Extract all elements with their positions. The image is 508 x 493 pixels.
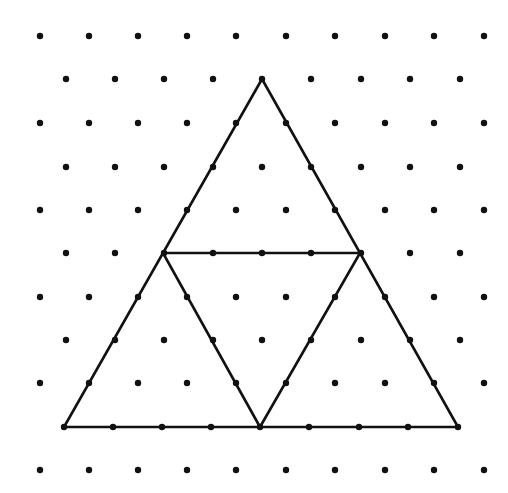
grid-dot — [407, 164, 413, 170]
grid-dot — [86, 33, 92, 39]
grid-dot — [37, 294, 43, 300]
grid-dot — [407, 250, 413, 256]
grid-dot — [233, 467, 239, 473]
grid-dot — [161, 76, 167, 82]
grid-dot — [37, 207, 43, 213]
grid-dot — [161, 337, 167, 343]
grid-dot — [135, 380, 141, 386]
grid-dot — [382, 380, 388, 386]
grid-dot — [481, 294, 487, 300]
grid-dot — [481, 33, 487, 39]
grid-dot — [135, 120, 141, 126]
grid-dot — [233, 294, 239, 300]
grid-dot — [431, 33, 437, 39]
grid-dot — [86, 294, 92, 300]
grid-dot — [63, 337, 69, 343]
grid-dot — [283, 33, 289, 39]
grid-dot — [431, 120, 437, 126]
grid-dot — [332, 33, 338, 39]
grid-dot — [63, 250, 69, 256]
grid-dot — [86, 467, 92, 473]
grid-dot — [184, 120, 190, 126]
grid-dot — [184, 33, 190, 39]
grid-dot — [135, 467, 141, 473]
grid-dot — [431, 207, 437, 213]
grid-dot — [457, 76, 463, 82]
grid-dot — [184, 467, 190, 473]
grid-dot — [210, 76, 216, 82]
grid-dot — [358, 164, 364, 170]
grid-dot — [112, 250, 118, 256]
grid-dot — [37, 33, 43, 39]
grid-dot — [233, 207, 239, 213]
grid-dot — [457, 250, 463, 256]
grid-dot — [259, 164, 265, 170]
grid-dot — [457, 164, 463, 170]
grid-dot — [382, 120, 388, 126]
grid-dot — [86, 120, 92, 126]
grid-dot — [308, 76, 314, 82]
grid-dot — [112, 76, 118, 82]
grid-dot — [63, 164, 69, 170]
grid-dot — [86, 207, 92, 213]
grid-dot — [481, 467, 487, 473]
grid-dot — [481, 120, 487, 126]
grid-dot — [233, 33, 239, 39]
grid-dot — [184, 380, 190, 386]
grid-dot — [358, 337, 364, 343]
background — [0, 0, 508, 493]
grid-dot — [481, 380, 487, 386]
grid-dot — [431, 467, 437, 473]
grid-dot — [457, 337, 463, 343]
grid-dot — [283, 294, 289, 300]
grid-dot — [37, 380, 43, 386]
grid-dot — [135, 207, 141, 213]
grid-dot — [358, 76, 364, 82]
grid-dot — [63, 76, 69, 82]
grid-dot — [283, 467, 289, 473]
grid-dot — [112, 164, 118, 170]
grid-dot — [332, 120, 338, 126]
grid-dot — [382, 467, 388, 473]
grid-dot — [135, 33, 141, 39]
grid-dot — [283, 207, 289, 213]
grid-dot — [382, 207, 388, 213]
grid-dot — [37, 120, 43, 126]
grid-dot — [431, 294, 437, 300]
grid-dot — [259, 337, 265, 343]
grid-dot — [382, 33, 388, 39]
grid-dot — [481, 207, 487, 213]
grid-dot — [332, 380, 338, 386]
grid-dot — [161, 164, 167, 170]
dot-paper-diagram — [0, 0, 508, 493]
grid-dot — [332, 467, 338, 473]
grid-dot — [407, 76, 413, 82]
grid-dot — [37, 467, 43, 473]
